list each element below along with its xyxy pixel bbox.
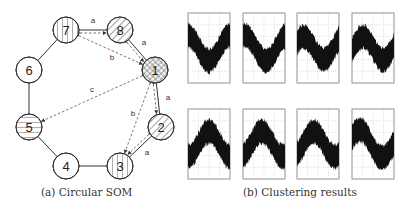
svg-text:4: 4 — [62, 159, 69, 174]
svg-text:6: 6 — [25, 63, 32, 78]
svg-text:3: 3 — [116, 159, 123, 174]
similarity-link-b — [125, 83, 150, 153]
similarity-link-c — [42, 76, 142, 121]
cluster-plot — [352, 13, 394, 83]
figure: aaaabbc 12345678 (a) Circular SOM (b) Cl… — [0, 0, 407, 212]
som-node-8: 8 — [107, 17, 133, 43]
som-node-6: 6 — [16, 57, 42, 83]
circular-som-diagram: aaaabbc 12345678 — [0, 0, 185, 190]
link-label: c — [90, 85, 94, 94]
cluster-plot — [243, 109, 285, 179]
som-node-4: 4 — [53, 153, 79, 179]
svg-text:5: 5 — [25, 120, 32, 135]
svg-text:2: 2 — [157, 120, 164, 135]
svg-text:1: 1 — [151, 63, 158, 78]
cluster-plot — [188, 13, 230, 83]
svg-text:7: 7 — [62, 23, 69, 38]
ring-edges — [29, 30, 161, 166]
cluster-plot — [297, 13, 339, 83]
som-node-7: 7 — [53, 17, 79, 43]
cluster-plot — [352, 109, 394, 179]
link-label: a — [142, 38, 147, 47]
cluster-plot — [243, 13, 285, 83]
cluster-plot — [188, 109, 230, 179]
som-node-5: 5 — [16, 114, 42, 140]
similarity-link-a — [153, 84, 156, 113]
link-label: a — [166, 93, 171, 102]
link-label: a — [145, 148, 150, 157]
svg-text:8: 8 — [116, 23, 123, 38]
som-node-2: 2 — [148, 114, 174, 140]
cluster-plot — [297, 109, 339, 179]
link-label: b — [110, 53, 115, 62]
link-label: a — [91, 16, 96, 25]
clustering-results-grid — [185, 0, 407, 180]
link-label: b — [131, 109, 136, 118]
som-nodes: 12345678 — [16, 17, 174, 179]
caption-clustering-results: (b) Clustering results — [243, 186, 357, 198]
som-node-1: 1 — [142, 57, 168, 83]
som-node-3: 3 — [107, 153, 133, 179]
caption-circular-som: (a) Circular SOM — [41, 186, 132, 198]
